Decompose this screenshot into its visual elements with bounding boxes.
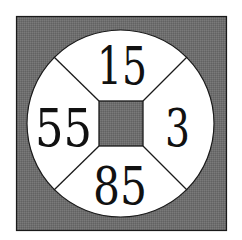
number-left: 55 [35, 98, 92, 158]
puzzle-diagram: 15 55 3 85 [0, 0, 242, 240]
number-right: 3 [165, 98, 190, 158]
number-bottom: 85 [93, 156, 147, 216]
number-top: 15 [97, 36, 147, 96]
inner-shaded-square [99, 101, 143, 146]
